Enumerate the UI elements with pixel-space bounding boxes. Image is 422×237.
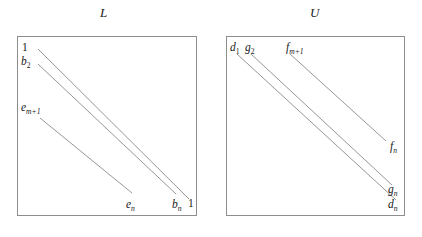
label-U-fn-subscript: n xyxy=(393,146,397,155)
label-U-d1: d1 xyxy=(230,41,240,53)
panel-title-L: L xyxy=(100,5,107,21)
label-L-en-subscript: n xyxy=(131,204,135,213)
label-U-g2-subscript: 2 xyxy=(251,47,255,56)
label-U-gn: gn xyxy=(388,183,398,195)
label-U-g2-base: g xyxy=(245,41,251,53)
label-L-b2: b2 xyxy=(21,55,31,67)
label-L-one-top: 1 xyxy=(22,41,28,53)
label-L-b2-base: b xyxy=(21,55,27,67)
label-U-gn-subscript: n xyxy=(394,189,398,198)
label-L-one-bottom: 1 xyxy=(188,197,194,209)
matrix-box-U xyxy=(226,36,405,216)
label-L-em1: em+1 xyxy=(21,101,41,113)
label-U-gn-base: g xyxy=(388,183,394,195)
panel-title-U: U xyxy=(310,5,320,21)
label-L-one-top-base: 1 xyxy=(22,41,28,53)
label-U-d1-base: d xyxy=(230,41,236,53)
label-U-fm1-subscript: m+1 xyxy=(289,47,303,56)
label-L-one-bottom-base: 1 xyxy=(188,197,194,209)
label-U-fn: fn xyxy=(390,140,397,152)
label-L-em1-subscript: m+1 xyxy=(26,107,40,116)
label-U-g2: g2 xyxy=(245,41,255,53)
label-U-dn: dn xyxy=(388,198,398,210)
label-L-bn-base: b xyxy=(172,198,178,210)
label-U-fm1: fm+1 xyxy=(286,41,304,53)
label-L-bn: bn xyxy=(172,198,182,210)
figure-canvas: L U 1b2em+1enbn1d1g2fm+1fngndn xyxy=(0,0,422,237)
label-L-bn-subscript: n xyxy=(178,204,182,213)
label-U-dn-subscript: n xyxy=(394,204,398,213)
label-U-d1-subscript: 1 xyxy=(236,47,240,56)
label-L-b2-subscript: 2 xyxy=(27,61,31,70)
label-U-dn-base: d xyxy=(388,198,394,210)
label-L-en: en xyxy=(126,198,135,210)
matrix-box-L xyxy=(17,36,197,216)
